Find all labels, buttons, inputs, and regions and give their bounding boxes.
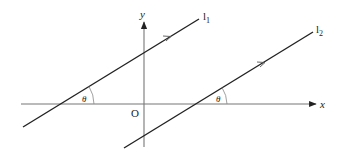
line-l2 <box>124 32 313 148</box>
angle-arc-l2 <box>222 88 227 105</box>
angle-label-l2: θ <box>216 94 221 104</box>
angle-arc-l1 <box>89 87 94 105</box>
y-axis-label: y <box>139 8 145 20</box>
line-l2-label: l2 <box>316 23 323 38</box>
line-l1 <box>23 19 199 127</box>
diagram-canvas: y x O l1 l2 θ θ <box>0 0 342 158</box>
angle-label-l1: θ <box>82 94 87 104</box>
line-l1-label: l1 <box>203 10 210 25</box>
coordinate-diagram: y x O l1 l2 θ θ <box>0 0 342 158</box>
x-axis-label: x <box>319 98 325 110</box>
origin-label: O <box>131 107 139 119</box>
